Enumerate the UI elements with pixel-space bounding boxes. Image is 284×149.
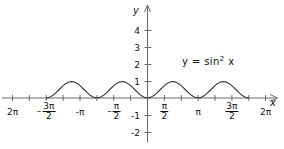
equation-lhs: y = sin bbox=[182, 56, 220, 67]
y-axis-label: y bbox=[133, 5, 139, 16]
xtick-fraction: 3π 2 bbox=[225, 102, 238, 121]
xtick-fraction: π 2 bbox=[113, 102, 120, 121]
xtick-label-negpi-over-2: – π 2 bbox=[107, 103, 120, 122]
xtick-text: -π bbox=[76, 107, 85, 117]
plot-canvas bbox=[0, 0, 284, 149]
equation-annotation: y = sin2 x bbox=[182, 56, 235, 67]
ytick-label-neg1: -1 bbox=[123, 111, 140, 120]
fraction-denominator: 2 bbox=[113, 112, 120, 121]
xtick-sign: – bbox=[37, 107, 42, 116]
xtick-sign: – bbox=[107, 107, 112, 116]
sin-squared-plot-figure: y x y = sin2 x 2π – 3π 2 -π – π 2 π 2 π … bbox=[0, 0, 284, 149]
ytick-label-4: 4 bbox=[126, 26, 140, 35]
y-axis bbox=[145, 5, 151, 142]
xtick-label-3pi-over-2: 3π 2 bbox=[225, 103, 238, 122]
xtick-label-pi: π bbox=[195, 108, 200, 117]
xtick-text: 2π bbox=[260, 107, 271, 117]
fraction-denominator: 2 bbox=[42, 112, 55, 121]
xtick-text: 2π bbox=[7, 107, 18, 117]
ytick-label-3: 3 bbox=[126, 43, 140, 52]
xtick-label-2pi: 2π bbox=[260, 108, 271, 117]
xtick-label-neg2pi: 2π bbox=[7, 108, 18, 117]
xtick-fraction: 3π 2 bbox=[42, 102, 55, 121]
xtick-label-neg3pi-over-2: – 3π 2 bbox=[37, 103, 56, 122]
ytick-label-1: 1 bbox=[126, 77, 140, 86]
fraction-denominator: 2 bbox=[225, 112, 238, 121]
equation-variable: x bbox=[228, 56, 234, 67]
xtick-text: π bbox=[195, 107, 200, 117]
equation-exponent: 2 bbox=[220, 55, 225, 63]
xtick-label-pi-over-2: π 2 bbox=[161, 103, 168, 122]
xtick-label-negpi: -π bbox=[76, 108, 85, 117]
ytick-label-neg2: -2 bbox=[123, 128, 140, 137]
ytick-label-2: 2 bbox=[126, 60, 140, 69]
xtick-fraction: π 2 bbox=[161, 102, 168, 121]
fraction-denominator: 2 bbox=[161, 112, 168, 121]
